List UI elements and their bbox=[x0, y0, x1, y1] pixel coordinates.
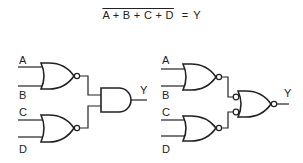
nor-gate-output bbox=[238, 91, 271, 117]
nor-bubble-cd bbox=[216, 125, 221, 130]
nor-bubble-ab bbox=[74, 73, 79, 78]
wire-nor1-to-gate3 bbox=[222, 77, 233, 97]
input-bubble-bottom bbox=[233, 109, 239, 115]
label-c: C bbox=[162, 106, 170, 118]
nor-gate-cd bbox=[41, 115, 74, 142]
nor-gate-cd bbox=[183, 116, 216, 141]
label-a: A bbox=[19, 54, 27, 66]
label-b: B bbox=[162, 89, 169, 101]
label-d: D bbox=[162, 143, 170, 155]
label-y: Y bbox=[140, 84, 148, 96]
label-d: D bbox=[19, 143, 27, 155]
wire-nor1-to-and bbox=[80, 76, 101, 95]
label-a: A bbox=[162, 54, 170, 66]
label-c: C bbox=[19, 106, 27, 118]
output-bubble bbox=[271, 101, 276, 106]
left-circuit: A B C D Y bbox=[18, 54, 148, 155]
input-bubble-top bbox=[233, 94, 239, 100]
label-b: B bbox=[19, 89, 26, 101]
wire-nor2-to-and bbox=[80, 106, 101, 128]
nor-bubble-ab bbox=[216, 74, 221, 79]
right-circuit: A B C D Y bbox=[161, 54, 292, 155]
logic-diagram: A B C D Y A B C D Y bbox=[0, 0, 303, 163]
nor-gate-ab bbox=[183, 64, 216, 90]
and-gate bbox=[101, 88, 131, 112]
nor-bubble-cd bbox=[74, 125, 79, 130]
wire-nor2-to-gate3 bbox=[222, 112, 233, 128]
nor-gate-ab bbox=[41, 63, 74, 89]
label-y: Y bbox=[284, 87, 292, 99]
